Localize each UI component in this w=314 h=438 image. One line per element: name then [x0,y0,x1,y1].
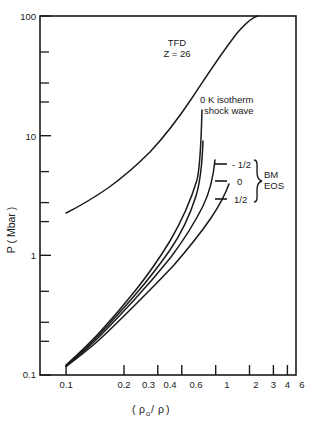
curve-bm-eos-minus-half [66,141,203,366]
x-axis-title-open: ( [132,403,136,415]
legend-label-minus-half: - 1/2 [232,159,251,170]
x-axis-ticks [66,365,287,375]
annotation-tfd-line1: TFD [168,37,187,48]
x-tick-label-0.3: 0.3 [142,379,155,390]
y-tick-label-10: 10 [25,131,36,142]
annotation-shockwave-line1: 0 K isotherm [200,94,253,105]
x-tick-label-0.4: 0.4 [163,379,176,390]
x-tick-label-6: 6 [299,379,304,390]
legend: - 1/2 0 1/2 BM EOS [215,159,284,205]
x-axis-title-subscript: o [146,409,150,418]
x-tick-label-2: 2 [253,379,258,390]
curve-shock-wave [66,110,202,365]
x-axis-title-rho0: ρ [139,403,145,415]
x-axis-title: ( ρ o / ρ ) [132,403,170,418]
annotation-shockwave-line2: shock wave [204,105,254,116]
chart-svg: 100 10 1 0.1 P ( Mbar ) 0.1 0.2 0.3 0.4 … [0,0,314,438]
x-axis-title-slash: / [151,403,154,415]
x-tick-label-0.1: 0.1 [59,379,72,390]
x-tick-label-0.6: 0.6 [189,379,202,390]
x-axis-title-close: ) [166,403,170,415]
legend-label-plus-half: 1/2 [234,194,247,205]
x-axis-title-rho: ρ [158,403,164,415]
y-tick-label-0.1: 0.1 [23,369,36,380]
annotation-tfd-line2: Z = 26 [163,48,190,59]
legend-group-label-line2: EOS [264,180,284,191]
y-axis-title: P ( Mbar ) [5,207,17,253]
x-tick-label-4: 4 [285,379,290,390]
y-axis-ticks [40,16,51,375]
x-tick-label-1: 1 [224,379,229,390]
figure-container: 100 10 1 0.1 P ( Mbar ) 0.1 0.2 0.3 0.4 … [0,0,314,438]
legend-brace [254,160,262,202]
legend-label-zero: 0 [237,176,242,187]
y-tick-label-100: 100 [20,11,36,22]
x-tick-label-3: 3 [271,379,276,390]
y-tick-label-1: 1 [31,250,36,261]
legend-group-label-line1: BM [264,169,278,180]
x-tick-label-0.2: 0.2 [117,379,130,390]
